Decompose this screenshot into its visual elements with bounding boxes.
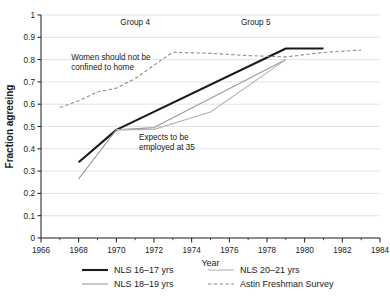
y-tick-label: 0.9: [24, 33, 36, 42]
gridlines: [41, 15, 380, 216]
y-tick-label: 0.1: [24, 212, 36, 221]
legend: NLS 16–17 yrsNLS 20–21 yrsNLS 18–19 yrsA…: [82, 265, 334, 289]
x-tick-label: 1968: [70, 246, 89, 255]
y-tick-label: 0.2: [24, 189, 36, 198]
x-tick-label: 1984: [371, 246, 390, 255]
y-tick-label: 0.3: [24, 167, 36, 176]
series-line: [79, 60, 286, 179]
y-tick-label: 1: [30, 11, 35, 20]
y-tick-label: 0.7: [24, 78, 36, 87]
legend-label: NLS 18–19 yrs: [114, 279, 174, 289]
chart-figure: 00.10.20.30.40.50.60.70.80.9119661968197…: [0, 0, 390, 300]
annotation-expects-to-be-employed-at-35: employed at 35: [139, 143, 195, 152]
x-tick-label: 1974: [183, 246, 202, 255]
x-tick-label: 1970: [107, 246, 126, 255]
annotation-expects-to-be-employed-at-35: Expects to be: [139, 133, 189, 142]
annotations: Group 4Group 5Women should not beconfine…: [71, 18, 271, 152]
y-tick-label: 0.6: [24, 100, 36, 109]
x-axis: 1966196819701972197419761978198019821984: [32, 238, 390, 255]
legend-label: NLS 20–21 yrs: [240, 265, 300, 275]
x-tick-label: 1982: [333, 246, 352, 255]
annotation-group-5: Group 5: [241, 18, 271, 27]
x-tick-label: 1978: [258, 246, 277, 255]
y-tick-label: 0.5: [24, 123, 36, 132]
x-tick-label: 1980: [296, 246, 315, 255]
x-axis-title: Year: [201, 258, 219, 268]
y-tick-label: 0.8: [24, 56, 36, 65]
x-tick-label: 1976: [220, 246, 239, 255]
y-tick-label: 0: [30, 234, 35, 243]
series-line: [116, 60, 285, 130]
annotation-group-4: Group 4: [120, 18, 150, 27]
annotation-women-should-not-be-confined-to-home: confined to home: [71, 63, 134, 72]
y-axis: 00.10.20.30.40.50.60.70.80.91: [24, 11, 41, 243]
legend-label: Astin Freshman Survey: [240, 279, 334, 289]
annotation-women-should-not-be-confined-to-home: Women should not be: [71, 53, 151, 62]
y-tick-label: 0.4: [24, 145, 36, 154]
legend-label: NLS 16–17 yrs: [114, 265, 174, 275]
x-tick-label: 1966: [32, 246, 51, 255]
x-tick-label: 1972: [145, 246, 164, 255]
y-axis-title: Fraction agreeing: [4, 85, 15, 169]
